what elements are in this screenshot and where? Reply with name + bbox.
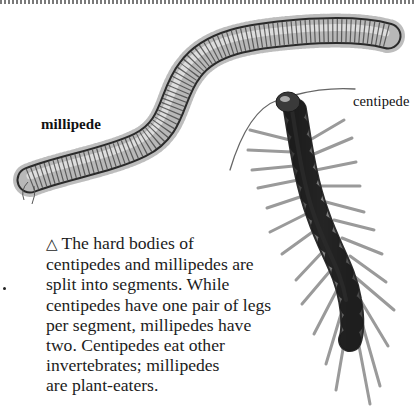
caption-line: are plant-eaters. [46, 375, 326, 395]
caption-line: centipedes and millipedes are [46, 254, 326, 274]
caption-line: invertebrates; millipedes [46, 355, 326, 375]
caption-line: △The hard bodies of [46, 233, 326, 254]
centipede-label: centipede [353, 93, 409, 110]
caption-line: split into segments. While [46, 274, 326, 294]
caption-text: The hard bodies of [62, 233, 194, 253]
caption-line: centipedes have one pair of legs [46, 295, 326, 315]
millipede-label: millipede [41, 116, 101, 133]
margin-dot [3, 287, 6, 290]
caption-line: per segment, millipedes have [46, 315, 326, 335]
caption: △The hard bodies of centipedes and milli… [46, 233, 326, 396]
caption-line: two. Centipedes eat other [46, 335, 326, 355]
triangle-up-outline-icon: △ [46, 235, 58, 253]
